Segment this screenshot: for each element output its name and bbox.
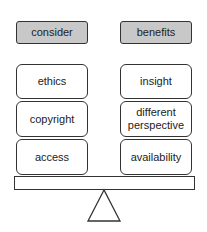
benefit-item-availability: availability [120, 139, 192, 175]
consider-item-copyright: copyright [16, 101, 88, 137]
benefit-item-different-perspective: different perspective [120, 101, 192, 137]
benefit-item-insight: insight [120, 64, 192, 99]
fulcrum-triangle-icon [86, 188, 122, 224]
consider-header: consider [16, 21, 88, 44]
consider-item-ethics: ethics [16, 64, 88, 99]
consider-item-access: access [16, 139, 88, 175]
benefits-header: benefits [120, 21, 192, 44]
